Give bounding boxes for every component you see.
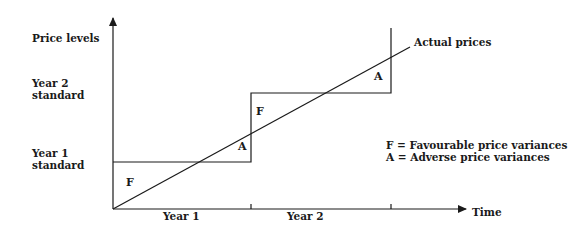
period-label-year2: Year 2	[286, 210, 324, 222]
year1-standard-label-line1: Year 1	[31, 147, 69, 159]
standard-price-step-line	[113, 28, 391, 162]
year2-standard-label-line1: Year 2	[31, 77, 69, 89]
price-variance-diagram: Price levels Time Year 2 standard Year 1…	[0, 0, 572, 234]
y-axis-label: Price levels	[32, 32, 100, 44]
legend-favourable: F = Favourable price variances	[386, 139, 568, 151]
mark-year2-favourable: F	[256, 105, 264, 118]
mark-year1-adverse: A	[237, 140, 247, 153]
period-label-year1: Year 1	[162, 210, 200, 222]
legend-adverse: A = Adverse price variances	[385, 151, 550, 163]
year2-standard-label-line2: standard	[32, 89, 85, 101]
mark-year1-favourable: F	[126, 176, 134, 189]
actual-prices-line	[113, 47, 410, 209]
actual-prices-label: Actual prices	[413, 36, 491, 48]
x-axis-label: Time	[472, 206, 502, 218]
year1-standard-label-line2: standard	[32, 159, 85, 171]
mark-year2-adverse: A	[373, 70, 383, 83]
